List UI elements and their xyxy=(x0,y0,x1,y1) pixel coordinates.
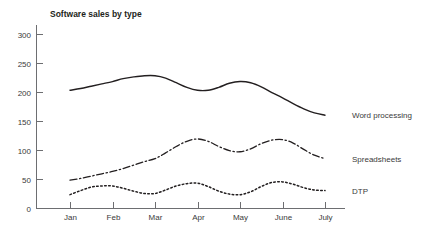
chart-axes xyxy=(37,25,346,209)
chart-title: Software sales by type xyxy=(50,9,142,19)
y-tick-label: 100 xyxy=(18,147,32,156)
x-axis-ticks: JanFebMarAprMayJuneJuly xyxy=(64,202,333,222)
x-tick-label: July xyxy=(318,213,332,222)
y-tick-label: 50 xyxy=(22,176,31,185)
x-tick-label: May xyxy=(233,213,248,222)
series-line xyxy=(70,76,325,116)
y-tick-label: 150 xyxy=(18,118,32,127)
software-sales-line-chart: Software sales by type050100150200250300… xyxy=(0,0,436,239)
axis-lines xyxy=(37,25,346,209)
x-tick-label: Apr xyxy=(192,213,205,222)
y-tick-label: 200 xyxy=(18,89,32,98)
x-tick-label: Feb xyxy=(107,213,121,222)
x-tick-label: Jan xyxy=(64,213,77,222)
series-word-processing xyxy=(70,76,325,116)
y-tick-label: 0 xyxy=(27,205,32,214)
series-label-spreadsheets: Spreadsheets xyxy=(352,155,401,164)
y-tick-label: 250 xyxy=(18,60,32,69)
series-spreadsheets xyxy=(70,139,325,180)
series-dtp xyxy=(70,182,325,195)
series-line xyxy=(70,139,325,180)
x-tick-label: Mar xyxy=(149,213,163,222)
x-tick-label: June xyxy=(275,213,293,222)
series-line xyxy=(70,182,325,195)
series-label-dtp: DTP xyxy=(352,187,368,196)
chart-container: Software sales by type050100150200250300… xyxy=(0,0,436,239)
y-tick-label: 300 xyxy=(18,31,32,40)
series-label-word-processing: Word processing xyxy=(352,111,412,120)
y-axis-ticks: 050100150200250300 xyxy=(18,31,43,214)
